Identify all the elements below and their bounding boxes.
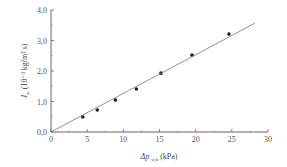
y-tick-label: 0,0 bbox=[37, 128, 47, 137]
y-tick-label: 2,0 bbox=[37, 67, 47, 76]
x-tick-label: 5 bbox=[85, 135, 89, 144]
x-tick-label: 30 bbox=[264, 135, 272, 144]
y-tick-label: 1,0 bbox=[37, 98, 47, 107]
axes bbox=[51, 10, 268, 132]
y-tick-label: 4,0 bbox=[37, 6, 47, 15]
x-tick-label: 25 bbox=[228, 135, 236, 144]
y-axis-label: Jw (10⁻³ kg/m² s) bbox=[20, 43, 30, 98]
data-series bbox=[51, 23, 255, 132]
chart: 0510152025300,01,02,03,04,0 Δp w,b (kPa)… bbox=[0, 0, 287, 167]
x-axis-label: Δp w,b (kPa) bbox=[139, 152, 177, 163]
x-tick-label: 10 bbox=[119, 135, 127, 144]
data-point bbox=[227, 32, 231, 36]
fit-line bbox=[51, 23, 255, 132]
x-tick-label: 20 bbox=[192, 135, 200, 144]
x-tick-label: 0 bbox=[49, 135, 53, 144]
x-tick-label: 15 bbox=[156, 135, 164, 144]
y-tick-label: 3,0 bbox=[37, 37, 47, 46]
data-point bbox=[95, 108, 99, 112]
data-point bbox=[135, 87, 139, 91]
ticks: 0510152025300,01,02,03,04,0 bbox=[37, 6, 272, 144]
